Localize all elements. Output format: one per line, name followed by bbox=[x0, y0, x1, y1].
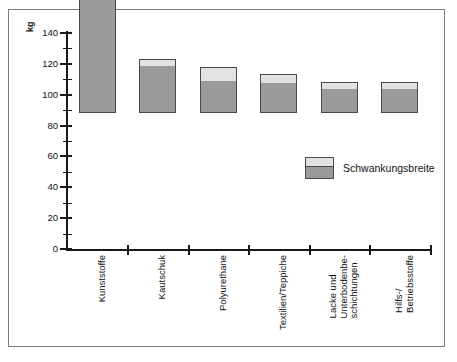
x-tick-separator-2 bbox=[188, 245, 190, 255]
bar-segment-base-2 bbox=[140, 66, 175, 112]
legend-label-schwankungsbreite: Schwankungsbreite bbox=[343, 162, 435, 174]
y-tick-minor-70 bbox=[63, 141, 72, 142]
x-axis-label-2: Kautschuk bbox=[157, 255, 168, 299]
x-tick-separator-5 bbox=[369, 245, 371, 255]
bar-2 bbox=[139, 59, 176, 113]
y-tick-label-20: 20 bbox=[18, 213, 58, 222]
bar-segment-base-3 bbox=[201, 81, 236, 112]
y-tick-label-80: 80 bbox=[18, 121, 58, 130]
x-axis-label-3: Polyurethane bbox=[218, 255, 229, 311]
y-tick-major-100 bbox=[60, 94, 72, 96]
bar-segment-base-5 bbox=[322, 89, 357, 112]
bar-segment-base-4 bbox=[261, 83, 296, 112]
x-axis-label-1: Kunststoffe bbox=[97, 255, 108, 302]
legend-swatch-schwankungsbreite bbox=[305, 157, 334, 179]
x-tick-separator-1 bbox=[127, 245, 129, 255]
y-tick-minor-50 bbox=[63, 172, 72, 173]
x-tick-separator-3 bbox=[248, 245, 250, 255]
y-tick-label-120: 120 bbox=[18, 59, 58, 68]
y-tick-major-80 bbox=[60, 125, 72, 127]
y-tick-major-140 bbox=[60, 32, 72, 34]
x-tick-separator-6 bbox=[430, 245, 432, 255]
y-tick-label-140: 140 bbox=[18, 28, 58, 37]
x-axis-label-4: Textilien/Teppiche bbox=[278, 255, 289, 330]
y-tick-label-0: 0 bbox=[18, 244, 58, 253]
y-tick-minor-30 bbox=[63, 203, 72, 204]
y-tick-label-100: 100 bbox=[18, 90, 58, 99]
bar-segment-base-6 bbox=[382, 89, 417, 112]
y-tick-minor-10 bbox=[63, 234, 72, 235]
y-tick-major-120 bbox=[60, 63, 72, 65]
bar-1 bbox=[79, 0, 116, 113]
bar-segment-base-1 bbox=[80, 0, 115, 112]
bar-4 bbox=[260, 74, 297, 113]
y-tick-major-0 bbox=[60, 248, 72, 250]
plot-area: kg 020406080100120140 KunststoffeKautsch… bbox=[0, 0, 457, 362]
legend-swatch-lower-half bbox=[306, 166, 333, 178]
bar-5 bbox=[321, 82, 358, 113]
y-tick-minor-130 bbox=[63, 48, 72, 49]
bar-6 bbox=[381, 82, 418, 113]
x-axis-label-6: Hilfs-/Betriebsstoffe bbox=[394, 255, 415, 313]
bar-3 bbox=[200, 67, 237, 113]
y-axis-labels: 020406080100120140 bbox=[14, 0, 58, 362]
chart-figure: kg 020406080100120140 KunststoffeKautsch… bbox=[0, 0, 457, 362]
y-tick-label-40: 40 bbox=[18, 182, 58, 191]
y-tick-major-20 bbox=[60, 217, 72, 219]
y-tick-label-60: 60 bbox=[18, 151, 58, 160]
y-tick-minor-110 bbox=[63, 79, 72, 80]
y-tick-minor-90 bbox=[63, 110, 72, 111]
chart-legend: Schwankungsbreite bbox=[305, 157, 435, 179]
x-tick-separator-4 bbox=[309, 245, 311, 255]
x-axis-label-5: Lacke undUnterbodenbe-schichtungen bbox=[328, 255, 360, 318]
y-tick-major-60 bbox=[60, 155, 72, 157]
y-tick-major-40 bbox=[60, 186, 72, 188]
